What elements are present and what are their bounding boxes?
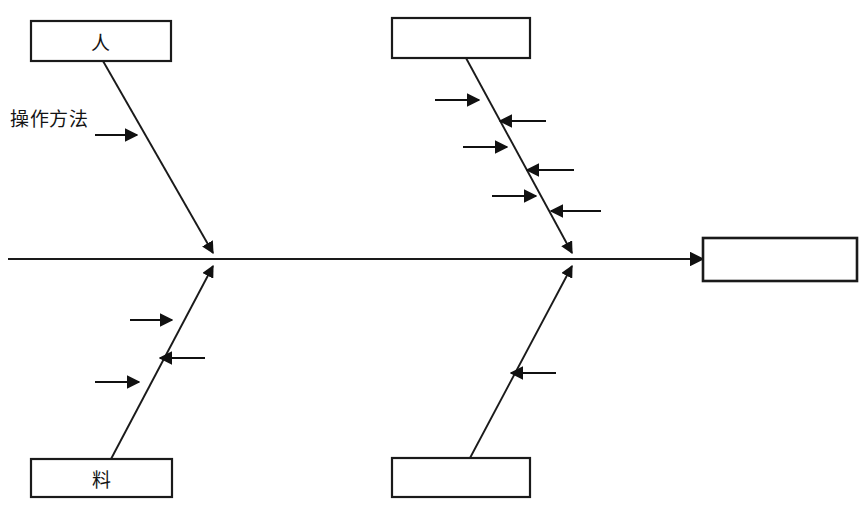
branch-lower-right <box>470 266 572 458</box>
fishbone-diagram-root: 人 料 操作方法 <box>0 0 867 512</box>
category-box-top-left[interactable] <box>31 21 171 61</box>
branch-lower-left <box>111 266 213 459</box>
category-box-top-middle[interactable] <box>392 18 530 58</box>
operation-method-label: 操作方法 <box>10 104 88 131</box>
category-box-bottom-middle[interactable] <box>392 458 530 497</box>
branch-upper-left <box>103 61 213 253</box>
category-box-bottom-left[interactable] <box>31 459 172 497</box>
effect-box-rect[interactable] <box>703 238 857 281</box>
fishbone-canvas <box>0 0 867 512</box>
branch-upper-right <box>466 58 572 253</box>
